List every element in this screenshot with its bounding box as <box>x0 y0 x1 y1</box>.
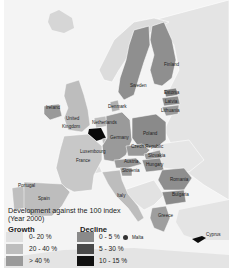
legend-growth-gt40: > 40 % <box>29 257 50 264</box>
legend-decline-10-15: 10 - 15 % <box>99 257 127 264</box>
label-cyprus: Cyprus <box>206 232 221 237</box>
swatch-growth-gt40 <box>6 256 23 266</box>
label-uk-2: Kingdom <box>62 124 80 129</box>
label-austria: Austria <box>124 159 138 164</box>
label-germany: Germany <box>110 135 129 140</box>
label-latvia: Latvia <box>165 99 177 104</box>
label-sweden: Sweden <box>130 83 147 88</box>
label-poland: Poland <box>143 131 157 136</box>
label-luxembourg: Luxembourg <box>80 149 106 154</box>
swatch-growth-0-20 <box>6 232 23 242</box>
label-czech: Czech Republic <box>131 144 163 149</box>
legend-growth-0-20: 0- 20 % <box>29 233 52 240</box>
label-ireland: Ireland <box>46 105 60 110</box>
map-frame: Finland Sweden Estonia Latvia Lithuania … <box>4 0 229 268</box>
land-turkey <box>176 200 229 240</box>
legend-subtitle: (Year 2000) <box>8 215 44 222</box>
label-portugal: Portugal <box>18 183 35 188</box>
label-lithuania: Lithuania <box>161 108 180 113</box>
label-finland: Finland <box>164 62 179 67</box>
label-estonia: Estonia <box>164 90 179 95</box>
label-slovenia: Slovenia <box>122 168 140 173</box>
land-iceland <box>48 10 74 33</box>
label-malta: Malta <box>132 235 143 240</box>
label-hungary: Hungary <box>146 162 163 167</box>
label-uk-1: United <box>66 116 79 121</box>
label-romania: Romania <box>170 177 188 182</box>
label-bulgaria: Bulgaria <box>172 192 189 197</box>
malta-dot <box>123 235 128 240</box>
legend-title: Development against the 100 index <box>8 207 121 215</box>
legend-decline-5-30: 5 - 30 % <box>99 245 124 252</box>
swatch-decline-0-5 <box>77 232 94 242</box>
swatch-decline-5-30 <box>77 244 94 254</box>
swatch-decline-10-15 <box>77 256 94 266</box>
label-slovakia: Slovakia <box>148 153 165 158</box>
swatch-growth-20-40 <box>6 244 23 254</box>
label-france: France <box>76 158 90 163</box>
label-italy: Italy <box>117 193 125 198</box>
country-greece <box>150 206 170 232</box>
europe-map <box>4 0 229 268</box>
legend-decline-0-5: 0 - 5 % <box>99 233 120 240</box>
country-france <box>56 134 102 192</box>
legend-growth-20-40: 20 - 40 % <box>29 245 57 252</box>
label-greece: Greece <box>158 213 173 218</box>
label-netherlands: Netherlands <box>92 120 117 125</box>
label-spain: Spain <box>38 196 50 201</box>
label-denmark: Denmark <box>108 104 127 109</box>
